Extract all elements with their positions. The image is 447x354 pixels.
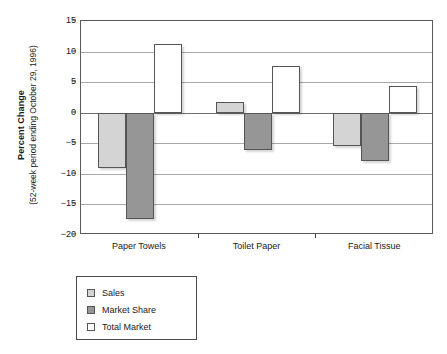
legend-item-sales[interactable]: Sales bbox=[87, 286, 125, 300]
gridline bbox=[81, 82, 432, 83]
gridline bbox=[81, 52, 432, 53]
chart-legend: SalesMarket ShareTotal Market bbox=[76, 276, 197, 340]
y-axis-title-subtitle: (52-week period ending October 29, 1996) bbox=[27, 45, 39, 205]
y-axis-tick-mark bbox=[72, 111, 76, 112]
bar-total-market-toilet-paper bbox=[272, 66, 300, 113]
x-axis-category-label: Facial Tissue bbox=[348, 241, 401, 252]
bar-market-share-paper-towels bbox=[126, 113, 154, 219]
y-axis-title-main: Percent Change bbox=[15, 90, 27, 160]
legend-swatch-icon bbox=[87, 306, 95, 314]
y-axis-tick-mark bbox=[72, 142, 76, 143]
bar-sales-paper-towels bbox=[98, 113, 126, 168]
legend-swatch-icon bbox=[87, 323, 95, 331]
legend-swatch-icon bbox=[87, 289, 95, 297]
legend-item-market-share[interactable]: Market Share bbox=[87, 303, 156, 317]
y-axis-title: (52-week period ending October 29, 1996)… bbox=[10, 14, 44, 236]
y-axis-tick-mark bbox=[72, 203, 76, 204]
y-axis-tick-labels: 151050−5−10−15−20 bbox=[40, 0, 76, 354]
legend-label: Sales bbox=[102, 288, 125, 298]
bar-total-market-paper-towels bbox=[154, 44, 182, 112]
bar-market-share-toilet-paper bbox=[244, 113, 272, 150]
y-axis-tick-mark bbox=[72, 50, 76, 51]
bar-market-share-facial-tissue bbox=[361, 113, 389, 161]
y-axis-tick-mark bbox=[72, 172, 76, 173]
x-axis-tick-mark bbox=[198, 234, 199, 238]
bar-total-market-facial-tissue bbox=[389, 86, 417, 113]
bar-sales-facial-tissue bbox=[333, 113, 361, 146]
x-axis-tick-mark bbox=[315, 234, 316, 238]
x-axis: Paper TowelsToilet PaperFacial Tissue bbox=[80, 234, 433, 260]
legend-item-total-market[interactable]: Total Market bbox=[87, 320, 151, 334]
y-axis-tick-mark bbox=[72, 234, 76, 235]
legend-label: Total Market bbox=[102, 322, 151, 332]
bar-chart-figure: (52-week period ending October 29, 1996)… bbox=[0, 0, 447, 354]
y-axis-tick-mark bbox=[72, 81, 76, 82]
plot-area bbox=[80, 20, 433, 234]
legend-label: Market Share bbox=[102, 305, 156, 315]
x-axis-category-label: Toilet Paper bbox=[233, 241, 281, 252]
x-axis-category-label: Paper Towels bbox=[112, 241, 166, 252]
bar-sales-toilet-paper bbox=[216, 102, 244, 112]
y-axis-tick-mark bbox=[72, 20, 76, 21]
